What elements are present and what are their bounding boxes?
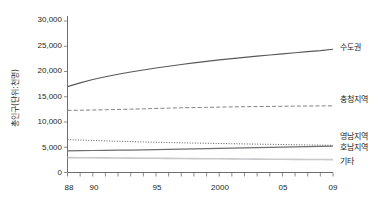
population-line-chart: 총인구(단위:천명) 0 5,000 10,000 15,000 20,000 … [0, 0, 384, 202]
chart-container: 총인구(단위:천명) 0 5,000 10,000 15,000 20,000 … [0, 0, 384, 202]
series-inline-labels: 수도권 충청지역 영남지역 호남지역 기타 [340, 42, 368, 166]
y-tick-30000: 30,000 [38, 15, 63, 24]
series-line-호남지역 [68, 146, 334, 151]
y-axis-title: 총인구(단위:천명) [10, 69, 20, 127]
series-line-수도권 [68, 49, 334, 86]
x-tick-09: 09 [329, 183, 338, 192]
series-lines [68, 49, 334, 159]
y-tick-10000: 10,000 [38, 117, 63, 126]
x-tick-90: 90 [90, 183, 99, 192]
x-tick-95: 95 [153, 183, 162, 192]
y-axis-ticks [64, 21, 68, 173]
series-label-chungcheong: 충청지역 [340, 94, 368, 104]
series-line-영남지역 [68, 140, 334, 146]
x-tick-05: 05 [279, 183, 288, 192]
x-axis-tick-labels: 88 90 95 2000 05 09 [65, 183, 338, 192]
y-tick-25000: 25,000 [38, 41, 63, 50]
x-tick-2000: 2000 [211, 183, 229, 192]
series-line-기타 [68, 158, 334, 160]
y-tick-20000: 20,000 [38, 66, 63, 75]
series-label-sudogwon: 수도권 [340, 42, 361, 52]
x-axis-ticks [68, 173, 334, 177]
series-label-gita: 기타 [340, 157, 355, 166]
x-tick-88: 88 [65, 183, 74, 192]
series-label-honam: 호남지역 [340, 142, 368, 152]
y-axis-tick-labels: 0 5,000 10,000 15,000 20,000 25,000 30,0… [38, 15, 63, 177]
y-tick-0: 0 [58, 168, 63, 177]
y-tick-5000: 5,000 [42, 143, 63, 152]
y-tick-15000: 15,000 [38, 92, 63, 101]
series-line-충청지역 [68, 106, 334, 111]
series-label-yeongnam: 영남지역 [340, 131, 368, 141]
y-axis-title-text: 총인구(단위:천명) [10, 69, 20, 127]
